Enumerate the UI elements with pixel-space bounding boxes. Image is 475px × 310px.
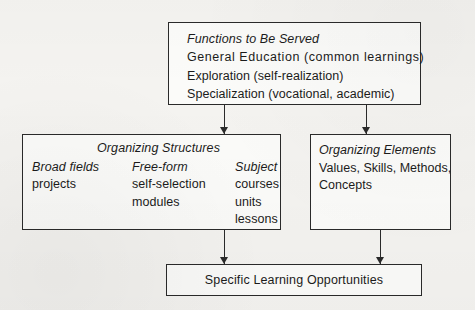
- column-item-projects: projects: [32, 176, 99, 194]
- structures-column-free-form: Free-form self-selection modules: [132, 159, 206, 211]
- column-item-courses: courses: [235, 176, 279, 194]
- column-heading-free-form: Free-form: [132, 159, 206, 176]
- column-item-units: units: [235, 194, 279, 212]
- specific-learning-opportunities-box: Specific Learning Opportunities: [166, 264, 422, 296]
- functions-box-line-2: Exploration (self-realization): [187, 67, 420, 86]
- structures-box-title: Organizing Structures: [37, 141, 280, 155]
- elements-box-heading: Organizing Elements: [319, 142, 450, 160]
- column-item-lessons: lessons: [235, 211, 279, 229]
- functions-box-heading: Functions to Be Served: [187, 30, 420, 48]
- functions-to-be-served-box: Functions to Be Served General Education…: [168, 22, 421, 105]
- column-item-self-selection: self-selection: [132, 176, 206, 194]
- functions-box-line-3: Specialization (vocational, academic): [187, 85, 420, 104]
- column-item-modules: modules: [132, 194, 206, 212]
- outcome-box-label: Specific Learning Opportunities: [205, 273, 383, 287]
- column-heading-subject: Subject: [235, 159, 279, 176]
- structures-columns: Broad fields projects Free-form self-sel…: [23, 159, 280, 229]
- arrowhead-functions-to-structures: [220, 127, 228, 134]
- organizing-elements-box: Organizing Elements Values, Skills, Meth…: [310, 134, 451, 230]
- arrowhead-structures-to-outcome: [220, 257, 228, 264]
- column-heading-broad-fields: Broad fields: [32, 159, 99, 176]
- functions-box-line-1: General Education (common learnings): [187, 48, 420, 67]
- structures-column-subject: Subject courses units lessons: [235, 159, 279, 229]
- organizing-structures-box: Organizing Structures Broad fields proje…: [22, 134, 281, 230]
- arrowhead-functions-to-elements: [362, 127, 370, 134]
- elements-box-line-2: Concepts: [319, 177, 450, 195]
- diagram-canvas: Functions to Be Served General Education…: [0, 0, 475, 310]
- elements-box-line-1: Values, Skills, Methods,: [319, 160, 450, 178]
- structures-column-broad-fields: Broad fields projects: [32, 159, 99, 194]
- arrowhead-elements-to-outcome: [376, 257, 384, 264]
